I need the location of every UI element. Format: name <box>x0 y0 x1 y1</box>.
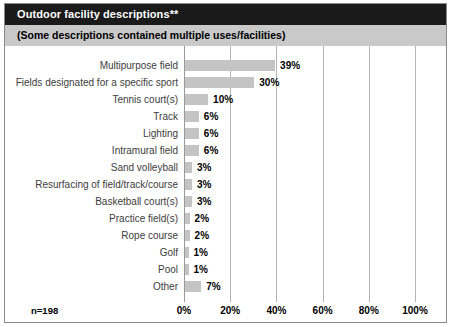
bar <box>185 128 199 139</box>
bar <box>185 162 192 173</box>
plot-area: Multipurpose field39%Fields designated f… <box>5 46 446 322</box>
x-tick-label: 20% <box>220 305 240 316</box>
bar-row: Sand volleyball3% <box>5 160 446 176</box>
bar-row: Intramural field6% <box>5 143 446 159</box>
bar-value-label: 2% <box>195 213 209 224</box>
bar-value-label: 3% <box>197 179 211 190</box>
bar-row: Practice field(s)2% <box>5 211 446 227</box>
bar-value-label: 10% <box>213 94 233 105</box>
bar <box>185 247 189 258</box>
bar <box>185 145 199 156</box>
bar-row: Multipurpose field39% <box>5 58 446 74</box>
bar-value-label: 39% <box>280 60 300 71</box>
sample-size-note: n=198 <box>31 305 58 316</box>
chart-frame: Outdoor facility descriptions** (Some de… <box>4 3 447 323</box>
bar-row: Lighting6% <box>5 126 446 142</box>
bar-category-label: Multipurpose field <box>5 60 178 71</box>
bar-value-label: 7% <box>206 281 220 292</box>
bar-value-label: 1% <box>194 247 208 258</box>
bar-value-label: 3% <box>197 196 211 207</box>
chart-subtitle: (Some descriptions contained multiple us… <box>17 29 285 41</box>
x-tick-label: 100% <box>402 305 428 316</box>
bar-value-label: 6% <box>204 128 218 139</box>
page-title: Outdoor facility descriptions** <box>17 8 178 20</box>
bar-category-label: Lighting <box>5 128 178 139</box>
bar <box>185 179 192 190</box>
bar-row: Pool1% <box>5 262 446 278</box>
bar <box>185 94 208 105</box>
bar-value-label: 1% <box>194 264 208 275</box>
bar-category-label: Practice field(s) <box>5 213 178 224</box>
bar-category-label: Basketball court(s) <box>5 196 178 207</box>
bar-value-label: 6% <box>204 111 218 122</box>
bar-row: Other7% <box>5 279 446 295</box>
bar-category-label: Rope course <box>5 230 178 241</box>
bar-category-label: Intramural field <box>5 145 178 156</box>
bar-value-label: 6% <box>204 145 218 156</box>
bar <box>185 77 254 88</box>
bar-row: Fields designated for a specific sport30… <box>5 75 446 91</box>
bar-category-label: Sand volleyball <box>5 162 178 173</box>
bar-value-label: 30% <box>259 77 279 88</box>
bar-value-label: 3% <box>197 162 211 173</box>
bar <box>185 111 199 122</box>
bar <box>185 230 190 241</box>
x-tick-label: 0% <box>177 305 191 316</box>
bar-category-label: Tennis court(s) <box>5 94 178 105</box>
bar-row: Golf1% <box>5 245 446 261</box>
bar-row: Resurfacing of field/track/course3% <box>5 177 446 193</box>
x-tick-label: 80% <box>359 305 379 316</box>
x-tick-label: 60% <box>313 305 333 316</box>
bar-category-label: Resurfacing of field/track/course <box>5 179 178 190</box>
x-tick-label: 40% <box>266 305 286 316</box>
bar-row: Basketball court(s)3% <box>5 194 446 210</box>
bar-category-label: Pool <box>5 264 178 275</box>
chart-figure: Outdoor facility descriptions** (Some de… <box>0 0 451 327</box>
bar <box>185 213 190 224</box>
bar <box>185 264 189 275</box>
bar-category-label: Other <box>5 281 178 292</box>
bar-value-label: 2% <box>195 230 209 241</box>
bar-row: Tennis court(s)10% <box>5 92 446 108</box>
bar-category-label: Track <box>5 111 178 122</box>
bar-row: Rope course2% <box>5 228 446 244</box>
bar <box>185 60 275 71</box>
bar <box>185 196 192 207</box>
chart-subtitle-band: (Some descriptions contained multiple us… <box>5 25 446 46</box>
bar-row: Track6% <box>5 109 446 125</box>
bar <box>185 281 201 292</box>
bar-category-label: Golf <box>5 247 178 258</box>
chart-title-band: Outdoor facility descriptions** <box>5 4 446 25</box>
bar-category-label: Fields designated for a specific sport <box>5 77 178 88</box>
